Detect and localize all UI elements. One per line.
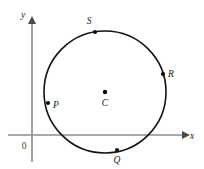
center-point-label: C xyxy=(102,98,109,108)
point-q-label: Q xyxy=(114,155,121,165)
point-r-dot xyxy=(161,72,165,76)
point-s-dot xyxy=(93,30,97,34)
x-axis-arrowhead xyxy=(182,131,190,139)
point-p-label: P xyxy=(52,100,59,110)
y-axis-label: y xyxy=(20,10,26,20)
point-r-label: R xyxy=(167,69,174,79)
point-p-dot xyxy=(46,101,50,105)
center-point-dot xyxy=(103,90,107,94)
point-s-label: S xyxy=(87,16,92,26)
y-axis-arrowhead xyxy=(28,16,36,24)
figure-canvas: C P Q R S x y 0 xyxy=(0,0,204,169)
point-q-dot xyxy=(115,148,119,152)
x-axis-label: x xyxy=(189,131,195,141)
origin-label: 0 xyxy=(22,141,27,151)
circle-geometry-figure: C P Q R S x y 0 xyxy=(0,0,204,169)
